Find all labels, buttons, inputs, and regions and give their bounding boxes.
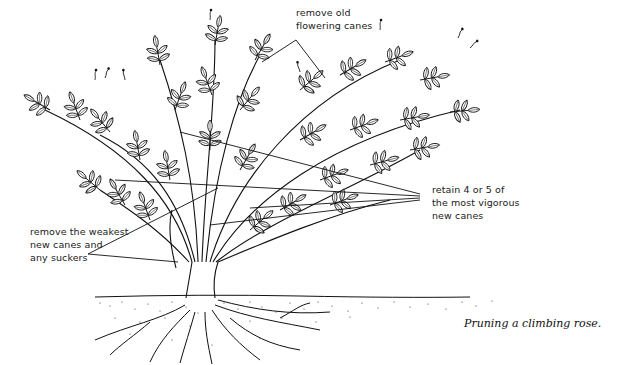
label-retain-new-canes: retain 4 or 5 of the most vigorous new c…	[432, 183, 520, 222]
label-line: the most vigorous	[432, 197, 520, 208]
rose-illustration	[0, 0, 624, 365]
label-line: new canes and	[30, 239, 103, 250]
roots	[95, 300, 330, 364]
buds	[95, 9, 479, 80]
label-line: new canes	[432, 210, 483, 221]
label-line: any suckers	[30, 252, 88, 263]
figure: remove old flowering canes retain 4 or 5…	[0, 0, 624, 365]
label-line: flowering canes	[296, 20, 372, 31]
label-line: remove old	[296, 7, 351, 18]
foliage	[18, 13, 481, 239]
label-remove-old-canes: remove old flowering canes	[296, 6, 372, 32]
crown-base	[186, 262, 218, 298]
label-line: remove the weakest	[30, 226, 129, 237]
figure-caption: Pruning a climbing rose.	[464, 317, 601, 330]
label-remove-weakest: remove the weakest new canes and any suc…	[30, 225, 129, 264]
label-line: retain 4 or 5 of	[432, 184, 504, 195]
ground	[95, 295, 493, 345]
